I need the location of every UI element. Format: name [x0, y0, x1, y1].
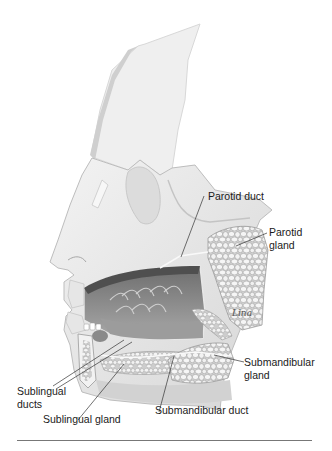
label-submandibular-gland-line1: Submandibular [244, 356, 315, 369]
label-parotid-gland-line2: gland [269, 239, 295, 252]
label-sublingual-gland: Sublingual gland [43, 413, 121, 426]
forehead-cutaway [90, 24, 200, 175]
label-parotid-duct: Parotid duct [208, 190, 264, 203]
label-sublingual-ducts-line1: Sublingual [17, 385, 66, 398]
label-parotid-gland-line1: Parotid [269, 226, 302, 239]
label-submandibular-gland-line2: gland [244, 369, 270, 382]
label-submandibular-duct: Submandibular duct [155, 404, 248, 417]
bottom-rule [17, 440, 312, 441]
label-sublingual-ducts-line2: ducts [17, 398, 42, 411]
artist-signature: Lina [231, 308, 252, 318]
